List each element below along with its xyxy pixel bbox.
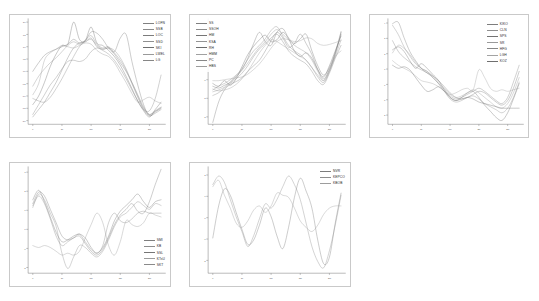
svg-text:2: 2 xyxy=(384,53,385,55)
series-line xyxy=(213,27,341,90)
svg-text:100: 100 xyxy=(449,128,452,130)
legend-swatch-icon xyxy=(143,47,154,48)
legend-swatch-icon xyxy=(320,183,331,184)
legend-label: KBOB xyxy=(333,180,343,186)
legend-swatch-icon xyxy=(196,66,207,67)
legend-swatch-icon xyxy=(144,252,155,253)
svg-text:-2: -2 xyxy=(384,114,386,116)
legend-swatch-icon xyxy=(487,24,498,25)
legend-swatch-icon xyxy=(143,41,154,42)
svg-text:0: 0 xyxy=(32,128,33,130)
chart-panel-3: -2-101234050100150200 KIKOCLNSPSSRHFGLGH… xyxy=(360,0,539,150)
legend-label: CLN xyxy=(500,27,507,33)
panel-4-legend: SMIKBSSLKTsUSKT xyxy=(142,235,167,270)
svg-text:0: 0 xyxy=(392,128,393,130)
legend-entry: SKT xyxy=(144,262,165,268)
svg-text:1.0: 1.0 xyxy=(23,46,26,48)
panel-1-frame: -2.0-1.5-1.0-0.50.00.51.01.52.0050100150… xyxy=(9,14,171,138)
svg-text:1: 1 xyxy=(204,196,205,198)
panel-3-legend: KIKOCLNSPSSRHFGLGHKOZ xyxy=(485,19,510,66)
svg-text:1: 1 xyxy=(384,68,385,70)
svg-text:-1: -1 xyxy=(24,248,26,250)
legend-swatch-icon xyxy=(143,29,154,30)
series-line xyxy=(213,30,341,92)
svg-text:200: 200 xyxy=(148,277,151,279)
svg-text:50: 50 xyxy=(420,128,422,130)
panel-1-legend: LOFNSSBLOCSSDSKILWELLG xyxy=(141,18,167,65)
legend-swatch-icon xyxy=(144,246,155,247)
legend-swatch-icon xyxy=(144,264,155,265)
svg-text:50: 50 xyxy=(61,277,63,279)
legend-swatch-icon xyxy=(487,55,498,56)
legend-entry: HBS xyxy=(196,63,219,69)
legend-swatch-icon xyxy=(143,54,154,55)
legend-entry: LG xyxy=(143,57,165,63)
svg-text:200: 200 xyxy=(328,128,331,130)
legend-swatch-icon xyxy=(487,30,498,31)
svg-text:150: 150 xyxy=(119,277,122,279)
svg-text:100: 100 xyxy=(270,277,273,279)
chart-panel-4: -2-10123050100150200 SMIKBSSLKTsUSKT xyxy=(0,150,180,301)
chart-panel-2: -3-2-1012050100150200 SSSSOHHMKSARHHMMPC… xyxy=(180,0,360,150)
legend-label: SMI xyxy=(157,237,163,243)
series-line xyxy=(213,38,341,81)
svg-text:50: 50 xyxy=(241,277,243,279)
legend-swatch-icon xyxy=(196,29,207,30)
svg-text:3: 3 xyxy=(24,171,25,173)
series-line xyxy=(213,178,341,265)
svg-text:1: 1 xyxy=(24,210,25,212)
svg-text:4: 4 xyxy=(384,22,385,24)
legend-label: LG xyxy=(156,57,161,63)
svg-text:-0.5: -0.5 xyxy=(22,83,25,85)
svg-text:0.5: 0.5 xyxy=(23,58,26,60)
chart-panel-5: -2-1012050100150200 NVRKEPCOKBOB xyxy=(180,150,360,301)
svg-text:150: 150 xyxy=(299,277,302,279)
legend-label: KIKO xyxy=(500,21,508,27)
legend-label: LOFN xyxy=(156,20,165,26)
legend-label: KSA xyxy=(209,39,216,45)
legend-swatch-icon xyxy=(196,23,207,24)
legend-swatch-icon xyxy=(143,23,154,24)
legend-label: HMM xyxy=(209,51,217,57)
svg-text:-2: -2 xyxy=(204,260,206,262)
svg-text:0: 0 xyxy=(24,229,25,231)
svg-text:150: 150 xyxy=(119,128,122,130)
svg-text:150: 150 xyxy=(299,128,302,130)
panel-4-frame: -2-10123050100150200 SMIKBSSLKTsUSKT xyxy=(9,162,171,287)
legend-label: PC xyxy=(209,57,214,63)
legend-label: HFG xyxy=(500,46,507,52)
legend-label: LOC xyxy=(156,32,163,38)
legend-swatch-icon xyxy=(143,60,154,61)
svg-text:-1.0: -1.0 xyxy=(22,95,25,97)
legend-label: KB xyxy=(157,243,162,249)
legend-label: SSB xyxy=(156,26,163,32)
legend-label: SSL xyxy=(157,250,164,256)
svg-text:0: 0 xyxy=(384,84,385,86)
legend-entry: KOZ xyxy=(487,58,508,64)
svg-text:-1.5: -1.5 xyxy=(22,108,25,110)
legend-label: SKT xyxy=(157,262,164,268)
legend-swatch-icon xyxy=(487,61,498,62)
svg-text:2: 2 xyxy=(204,174,205,176)
svg-text:-1: -1 xyxy=(384,99,386,101)
svg-text:0: 0 xyxy=(212,128,213,130)
svg-text:100: 100 xyxy=(90,277,93,279)
svg-text:50: 50 xyxy=(61,128,63,130)
legend-label: HBS xyxy=(209,63,216,69)
svg-text:0: 0 xyxy=(32,277,33,279)
svg-text:50: 50 xyxy=(241,128,243,130)
legend-swatch-icon xyxy=(196,41,207,42)
figure-grid: -2.0-1.5-1.0-0.50.00.51.01.52.0050100150… xyxy=(0,0,539,301)
legend-label: NVR xyxy=(333,168,340,174)
legend-label: RH xyxy=(209,45,214,51)
legend-label: KEPCO xyxy=(333,174,345,180)
series-line xyxy=(393,65,520,108)
svg-text:-1: -1 xyxy=(204,79,206,81)
legend-swatch-icon xyxy=(320,177,331,178)
legend-label: HM xyxy=(209,32,214,38)
svg-text:0: 0 xyxy=(204,217,205,219)
legend-entry: KBOB xyxy=(320,180,345,186)
legend-swatch-icon xyxy=(487,42,498,43)
legend-swatch-icon xyxy=(196,35,207,36)
panel-3-frame: -2-101234050100150200 KIKOCLNSPSSRHFGLGH… xyxy=(369,14,529,138)
